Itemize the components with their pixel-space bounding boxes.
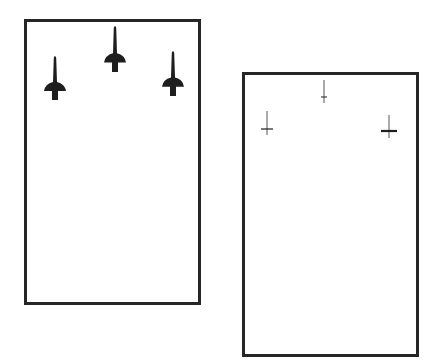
cross-mark-icon <box>321 80 327 103</box>
left-panel-frame <box>24 19 201 305</box>
cross-mark-icon <box>381 115 397 138</box>
rocket-icon <box>44 56 66 100</box>
right-panel-frame <box>242 72 419 357</box>
left-panel-canvas <box>27 22 204 308</box>
rocket-icon <box>104 26 126 72</box>
right-panel-canvas <box>245 75 422 360</box>
rocket-icon <box>162 51 184 96</box>
cross-mark-icon <box>261 111 273 135</box>
